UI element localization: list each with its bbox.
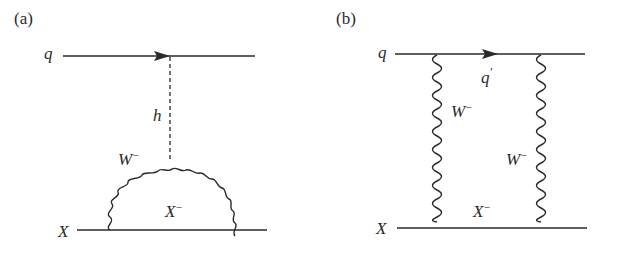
quark-label: q bbox=[44, 44, 53, 63]
panel-b: (b) q q′ W− W− X− X bbox=[336, 9, 587, 238]
x-label: X bbox=[57, 222, 69, 241]
x-label: X bbox=[375, 219, 387, 238]
w-left-label: W− bbox=[451, 101, 473, 121]
panel-a-label: (a) bbox=[14, 9, 33, 28]
panel-a: (a) q h W− X− X bbox=[14, 9, 267, 241]
x-minus-label: X− bbox=[472, 201, 491, 221]
panel-b-label: (b) bbox=[336, 9, 356, 28]
higgs-label: h bbox=[153, 106, 162, 125]
w-label: W− bbox=[118, 149, 140, 169]
q-prime-label: q′ bbox=[481, 65, 493, 87]
feynman-diagrams: (a) q h W− X− X (b) q q′ W− bbox=[0, 0, 619, 255]
quark-label: q bbox=[378, 43, 387, 62]
w-boson-right bbox=[537, 55, 546, 222]
w-right-label: W− bbox=[506, 149, 528, 169]
w-boson-left bbox=[433, 55, 442, 222]
x-minus-label: X− bbox=[164, 201, 183, 221]
